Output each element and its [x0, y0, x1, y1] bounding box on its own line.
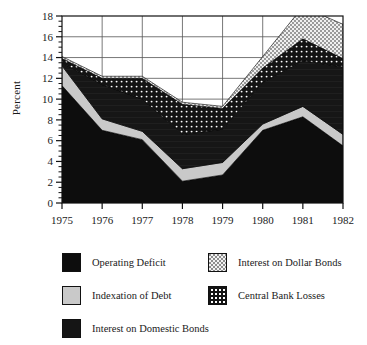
y-tick-label: 12: [42, 72, 53, 84]
legend-column-right: Interest on Dollar Bonds Central Bank Lo…: [208, 246, 367, 312]
plot-area: Percent: [0, 0, 367, 235]
y-tick-label: 10: [42, 93, 54, 105]
y-tick-label: 18: [42, 10, 54, 22]
y-tick-label: 4: [48, 155, 54, 167]
x-tick-label: 1982: [332, 214, 354, 226]
legend-label: Interest on Dollar Bonds: [238, 257, 342, 269]
area-chart: 024681012141618 197519761977197819791980…: [0, 0, 367, 235]
legend-item: Central Bank Losses: [208, 279, 367, 312]
x-tick-label: 1980: [252, 214, 275, 226]
y-tick-label: 14: [42, 51, 54, 63]
legend-label: Interest on Domestic Bonds: [92, 323, 209, 335]
y-tick-label: 8: [48, 114, 54, 126]
y-tick-label: 6: [48, 134, 54, 146]
y-tick-label: 2: [48, 176, 54, 188]
legend-item: Indexation of Debt: [62, 279, 212, 312]
x-tick-label: 1979: [212, 214, 235, 226]
legend-swatch-central-bank-losses: [208, 286, 227, 305]
legend-swatch-interest-domestic-bonds: [62, 319, 81, 338]
legend: Operating Deficit Indexation of Debt Int…: [0, 246, 367, 345]
y-tick-label: 16: [42, 31, 54, 43]
x-axis-ticks: 19751976197719781979198019811982: [51, 203, 354, 226]
x-tick-label: 1981: [292, 214, 314, 226]
y-tick-label: 0: [48, 197, 54, 209]
legend-swatch-operating-deficit: [62, 253, 81, 272]
figure: Percent: [0, 0, 367, 345]
legend-item: Interest on Dollar Bonds: [208, 246, 367, 279]
legend-item: Operating Deficit: [62, 246, 212, 279]
x-tick-label: 1978: [171, 214, 194, 226]
legend-label: Central Bank Losses: [238, 290, 325, 302]
x-tick-label: 1975: [51, 214, 74, 226]
x-tick-label: 1977: [131, 214, 154, 226]
legend-label: Operating Deficit: [92, 257, 166, 269]
legend-swatch-indexation-of-debt: [62, 286, 81, 305]
legend-column-left: Operating Deficit Indexation of Debt Int…: [62, 246, 212, 345]
legend-item: Interest on Domestic Bonds: [62, 312, 212, 345]
x-tick-label: 1976: [91, 214, 114, 226]
legend-swatch-interest-dollar-bonds: [208, 253, 227, 272]
y-axis-ticks: 024681012141618: [42, 10, 62, 209]
legend-label: Indexation of Debt: [92, 290, 171, 302]
